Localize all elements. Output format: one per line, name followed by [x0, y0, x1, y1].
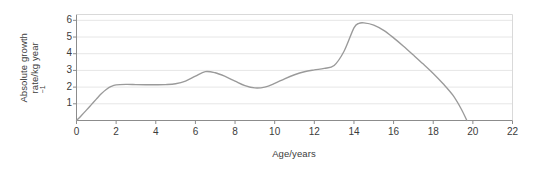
- y-tick-label: 1: [60, 97, 72, 108]
- x-tick-label: 10: [265, 126, 285, 137]
- y-tick-label: 4: [60, 47, 72, 58]
- y-tick-label: 2: [60, 81, 72, 92]
- figure-absolute-growth-rate: rate/kg year−1 Absolute growth Age/years…: [0, 0, 542, 171]
- x-tick-label: 20: [463, 126, 483, 137]
- x-tick-label: 8: [225, 126, 245, 137]
- x-tick-label: 22: [503, 126, 523, 137]
- plot-frame: [77, 15, 513, 121]
- x-tick-label: 0: [67, 126, 87, 137]
- x-tick-label: 16: [384, 126, 404, 137]
- x-tick-label: 14: [344, 126, 364, 137]
- x-tick-label: 18: [423, 126, 443, 137]
- y-tick-label: 6: [60, 14, 72, 25]
- y-tick-label: 3: [60, 64, 72, 75]
- x-tick-label: 12: [304, 126, 324, 137]
- y-tick-label: 5: [60, 31, 72, 42]
- x-tick-label: 2: [106, 126, 126, 137]
- gridlines: [77, 20, 513, 103]
- x-tick-label: 6: [185, 126, 205, 137]
- plot-area: [0, 0, 542, 171]
- x-tick-label: 4: [146, 126, 166, 137]
- tick-marks: [73, 20, 513, 124]
